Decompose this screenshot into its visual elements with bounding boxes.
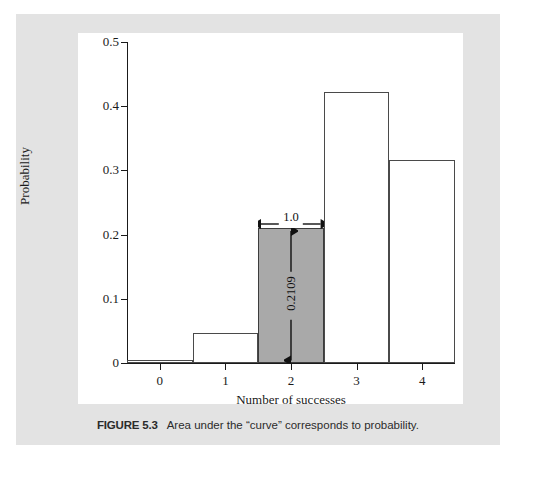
plot-panel: [78, 33, 463, 404]
figure-caption-body: Area under the “curve” corresponds to pr…: [167, 419, 419, 431]
figure-root: FIGURE 5.3Area under the “curve” corresp…: [0, 0, 533, 478]
figure-caption: FIGURE 5.3Area under the “curve” corresp…: [97, 419, 419, 431]
figure-caption-band: FIGURE 5.3Area under the “curve” corresp…: [16, 404, 500, 445]
figure-caption-label: FIGURE 5.3: [97, 419, 158, 431]
